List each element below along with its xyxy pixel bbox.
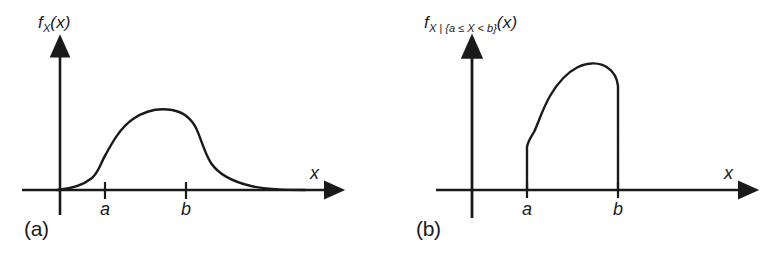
y-axis-label-argument: (x) [50, 13, 70, 32]
y-axis-label-subscript: X | {a ≤ X < b} [429, 22, 497, 34]
conditional-density-curve [527, 63, 618, 190]
panel-caption-a: (a) [24, 218, 49, 239]
x-axis-label: x [724, 164, 733, 182]
density-curve [57, 109, 305, 190]
panel-a-plot [0, 0, 392, 256]
tick-label-b: b [181, 200, 191, 218]
y-axis-label: fX(x) [38, 14, 71, 34]
y-axis-label: fX | {a ≤ X < b}(x) [424, 14, 517, 34]
y-axis-label-argument: (x) [497, 13, 517, 32]
tick-label-a: a [522, 200, 532, 218]
tick-label-a: a [100, 200, 110, 218]
panel-caption-b: (b) [416, 218, 441, 239]
panel-b-plot [392, 0, 784, 256]
figure-container: fX(x) x a b (a) [0, 0, 784, 256]
panel-b: fX | {a ≤ X < b}(x) x a b (b) [392, 0, 784, 256]
x-axis-label: x [310, 164, 319, 182]
tick-label-b: b [613, 200, 623, 218]
panel-a: fX(x) x a b (a) [0, 0, 392, 256]
